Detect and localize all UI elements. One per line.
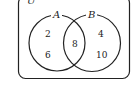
set-b-only-value: 4 <box>98 29 104 39</box>
set-b-label: B <box>87 9 95 20</box>
set-a-label: A <box>52 9 60 20</box>
universal-set-label: U <box>27 0 36 6</box>
set-a-only-value: 2 <box>45 29 51 39</box>
set-b-only-value: 10 <box>96 50 108 60</box>
set-a-only-value: 6 <box>45 50 51 60</box>
venn-diagram: U A B 2 6 8 4 10 <box>0 0 136 90</box>
intersection-value: 8 <box>72 39 78 49</box>
